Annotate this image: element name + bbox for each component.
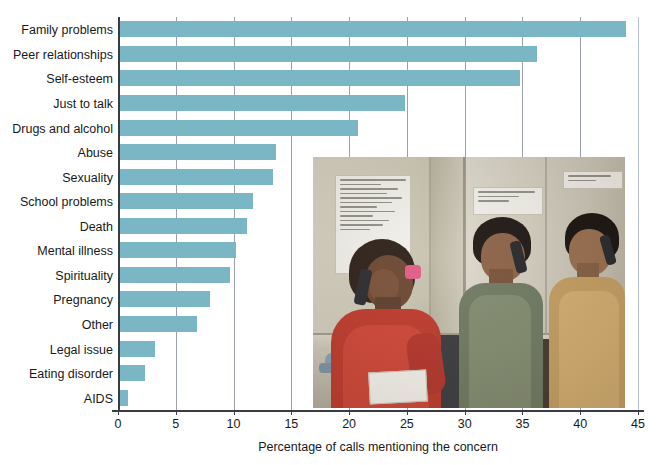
x-tick-label-40: 40 — [560, 417, 600, 431]
bar-chart-plot: Family problemsPeer relationshipsSelf-es… — [0, 0, 662, 465]
bar — [118, 120, 358, 136]
x-axis-line — [112, 410, 644, 412]
inset-photograph — [313, 157, 625, 408]
x-tick-label-35: 35 — [502, 417, 542, 431]
photo-person-3-shirt — [559, 291, 619, 408]
category-label: Self-esteem — [46, 71, 113, 87]
x-tick-20 — [349, 410, 350, 415]
bar — [118, 95, 405, 111]
photo-note-listen — [473, 187, 543, 215]
category-label: Other — [82, 317, 113, 333]
x-tick-15 — [291, 410, 292, 415]
bar — [118, 46, 537, 62]
gridline-45 — [638, 17, 639, 410]
x-tick-30 — [465, 410, 466, 415]
x-tick-35 — [522, 410, 523, 415]
category-label: Death — [80, 219, 113, 235]
x-tick-label-20: 20 — [329, 417, 369, 431]
category-label: Abuse — [78, 145, 113, 161]
category-label: Just to talk — [53, 96, 113, 112]
category-label: Spirituality — [55, 268, 113, 284]
bar — [118, 169, 273, 185]
bar — [118, 267, 230, 283]
bar — [118, 242, 236, 258]
y-axis-line — [118, 17, 120, 411]
x-tick-25 — [407, 410, 408, 415]
photo-person-2-shirt — [469, 295, 531, 408]
x-tick-10 — [234, 410, 235, 415]
photo-person-1-hair-clip — [405, 265, 421, 279]
category-axis-labels: Family problemsPeer relationshipsSelf-es… — [0, 0, 113, 410]
x-tick-45 — [638, 410, 639, 415]
bar — [118, 365, 145, 381]
category-label: AIDS — [84, 391, 113, 407]
bar — [118, 193, 253, 209]
x-tick-label-30: 30 — [445, 417, 485, 431]
bar — [118, 341, 155, 357]
category-label: Drugs and alcohol — [12, 121, 113, 137]
x-tick-5 — [176, 410, 177, 415]
photo-note-judge — [563, 171, 623, 189]
category-label: School problems — [20, 194, 113, 210]
bar — [118, 21, 626, 37]
category-label: Pregnancy — [53, 292, 113, 308]
x-tick-label-5: 5 — [156, 417, 196, 431]
category-label: Sexuality — [62, 170, 113, 186]
x-tick-label-15: 15 — [271, 417, 311, 431]
bar — [118, 291, 210, 307]
x-tick-0 — [118, 410, 119, 415]
category-label: Peer relationships — [13, 47, 113, 63]
x-axis-title: Percentage of calls mentioning the conce… — [118, 440, 638, 454]
bar — [118, 144, 276, 160]
x-tick-label-25: 25 — [387, 417, 427, 431]
category-label: Mental illness — [37, 243, 113, 259]
x-tick-label-0: 0 — [98, 417, 138, 431]
bar — [118, 316, 197, 332]
category-label: Eating disorder — [29, 366, 113, 382]
category-label: Family problems — [21, 22, 113, 38]
photo-desk-paper — [368, 370, 428, 405]
x-tick-40 — [580, 410, 581, 415]
bar — [118, 390, 128, 406]
category-label: Legal issue — [50, 342, 113, 358]
chart-figure: Family problemsPeer relationshipsSelf-es… — [0, 0, 662, 465]
bar — [118, 70, 520, 86]
x-tick-label-10: 10 — [214, 417, 254, 431]
bar — [118, 218, 247, 234]
x-tick-label-45: 45 — [618, 417, 658, 431]
